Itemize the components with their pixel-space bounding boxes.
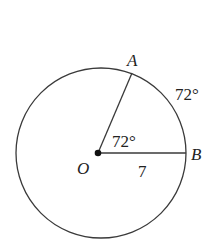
- arc-measure-label: 72°: [175, 85, 199, 104]
- point-b-label: B: [191, 145, 202, 164]
- center-point: [95, 150, 102, 157]
- radius-length-label: 7: [138, 162, 147, 181]
- center-label: O: [77, 159, 89, 178]
- circle-diagram: A B O 7 72° 72°: [0, 0, 219, 249]
- central-angle-label: 72°: [112, 132, 136, 151]
- point-a-label: A: [126, 51, 138, 70]
